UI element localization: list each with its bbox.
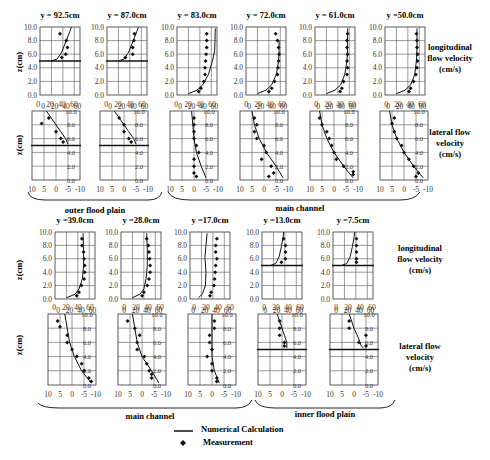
v-tick-label: 0 bbox=[192, 185, 196, 194]
measurement-marker bbox=[277, 45, 281, 49]
plot-title: y =50.0cm bbox=[387, 10, 424, 20]
z-tick-label: 2.0 bbox=[234, 77, 244, 86]
measurement-marker bbox=[210, 348, 214, 352]
v-tick-label: -5 bbox=[65, 185, 71, 194]
v-tick-label: -5 bbox=[273, 185, 279, 194]
z-tick-label: 4.0 bbox=[43, 268, 53, 277]
v-tick-label: 10 bbox=[184, 390, 192, 399]
z-tick-label: 6.0 bbox=[109, 254, 119, 263]
measurement-marker bbox=[140, 294, 144, 298]
u-tick-label: 0 bbox=[262, 303, 266, 312]
u-tick-label: 20 bbox=[202, 303, 210, 312]
u-tick-label: 0 bbox=[178, 102, 182, 111]
z-tick-label: 8.0 bbox=[205, 121, 213, 128]
u-tick-label: 20 bbox=[272, 303, 280, 312]
z-tick-label: 8.0 bbox=[67, 121, 75, 128]
z-tick-label: 0.0 bbox=[275, 177, 283, 184]
z-tick-label: 2.0 bbox=[153, 367, 161, 374]
svg-text:(cm/s): (cm/s) bbox=[409, 363, 431, 373]
z-tick-label: 8.0 bbox=[293, 325, 301, 332]
legend-line-label: Numerical Calculation bbox=[201, 424, 284, 434]
u-tick-label: 40 bbox=[336, 100, 344, 109]
z-axis-label: z(cm) bbox=[14, 260, 24, 280]
measurement-marker bbox=[346, 52, 350, 56]
measurement-marker bbox=[192, 157, 196, 161]
z-tick-label: 6.0 bbox=[275, 135, 283, 142]
plot-title: y = 92.5cm bbox=[40, 10, 79, 20]
z-tick-label: 2.0 bbox=[373, 77, 383, 86]
z-tick-label: 0.0 bbox=[321, 295, 331, 304]
plot-longitudinal-13: 10.08.06.04.02.00.00204060y =28.0cm bbox=[105, 215, 163, 315]
measurement-marker bbox=[278, 319, 282, 323]
v-tick-label: 10 bbox=[236, 185, 244, 194]
measurement-marker bbox=[354, 260, 358, 264]
z-tick-label: 10.0 bbox=[230, 23, 243, 32]
v-tick-label: -10 bbox=[423, 185, 433, 194]
plot-title: y = 61.0cm bbox=[315, 10, 354, 20]
u-tick-label: 20 bbox=[254, 100, 262, 109]
u-tick-label: 60 bbox=[348, 100, 356, 109]
v-tick-label: 0 bbox=[280, 390, 284, 399]
z-tick-label: 6.0 bbox=[135, 135, 143, 142]
u-tick-label: 40 bbox=[406, 100, 414, 109]
z-tick-label: 2.0 bbox=[303, 77, 313, 86]
v-tick-label: 10 bbox=[306, 185, 314, 194]
svg-text:(cm/s): (cm/s) bbox=[439, 64, 461, 74]
v-tick-label: -5 bbox=[133, 185, 139, 194]
plot-title: y =7.5cm bbox=[337, 215, 370, 225]
measurement-marker bbox=[82, 257, 86, 261]
numerical-calculation-line bbox=[349, 314, 363, 348]
numerical-calculation-line bbox=[326, 28, 347, 93]
u-tick-label: 40 bbox=[266, 100, 274, 109]
plot-longitudinal-5: 10.08.06.04.02.00.00204060y =50.0cm bbox=[369, 10, 427, 111]
plot-longitudinal-12: 10.08.06.04.02.00.00204060y =39.0cm bbox=[39, 215, 97, 315]
measurement-marker bbox=[213, 277, 217, 281]
measurement-marker bbox=[59, 137, 63, 141]
u-tick-label: 20 bbox=[394, 100, 402, 109]
measurement-marker bbox=[338, 90, 342, 94]
numerical-calculation-line bbox=[342, 232, 355, 266]
measurement-marker bbox=[87, 376, 91, 380]
side-label-lateral-row2: lateral flow velocity (cm/s) bbox=[399, 341, 441, 373]
u-tick-label: 20 bbox=[184, 100, 192, 109]
v-tick-label: 5 bbox=[58, 390, 62, 399]
plot-lateral-18: 10.08.06.04.02.00.002040601050-5-10 bbox=[114, 303, 171, 399]
numerical-calculation-line bbox=[257, 41, 279, 94]
u-tick-label: 40 bbox=[196, 100, 204, 109]
z-tick-label: 6.0 bbox=[303, 50, 313, 59]
u-tick-label: 40 bbox=[74, 303, 82, 312]
measurement-marker bbox=[192, 164, 196, 168]
measurement-marker bbox=[127, 137, 131, 141]
measurement-marker bbox=[208, 294, 212, 298]
v-tick-label: 5 bbox=[128, 390, 132, 399]
v-tick-label: -5 bbox=[81, 390, 87, 399]
measurement-marker bbox=[148, 264, 152, 268]
plot-title: y = 72.0cm bbox=[246, 10, 285, 20]
u-tick-label: 60 bbox=[368, 303, 376, 312]
measurement-marker bbox=[274, 32, 278, 36]
z-tick-label: 2.0 bbox=[43, 281, 53, 290]
v-tick-label: 0 bbox=[262, 185, 266, 194]
z-tick-label: 8.0 bbox=[234, 36, 244, 45]
measurement-marker bbox=[205, 45, 209, 49]
plot-title: y = 87.0cm bbox=[107, 10, 146, 20]
measurement-marker bbox=[364, 333, 368, 337]
group-label-main-channel-row2: main channel bbox=[126, 411, 176, 421]
plot-longitudinal-16: 10.08.06.04.02.00.00204060y =7.5cm bbox=[317, 215, 375, 315]
measurement-marker bbox=[392, 116, 396, 120]
u-tick-label: 20 bbox=[62, 303, 70, 312]
plot-lateral-6: 10.08.06.04.02.00.002040601050-5-10 bbox=[28, 100, 85, 194]
measurement-marker bbox=[214, 264, 218, 268]
u-tick-label: 60 bbox=[138, 100, 146, 109]
measurement-marker bbox=[213, 270, 217, 274]
z-tick-label: 4.0 bbox=[83, 353, 91, 360]
u-tick-label: 60 bbox=[86, 303, 94, 312]
z-tick-label: 2.0 bbox=[95, 77, 105, 86]
plot-title: y = 83.0cm bbox=[177, 10, 216, 20]
u-tick-label: 60 bbox=[208, 100, 216, 109]
z-tick-label: 0.0 bbox=[345, 177, 353, 184]
velocity-profile-figure: 10.08.06.04.02.00.00204060y = 92.5cm10.0… bbox=[0, 0, 490, 460]
measurement-marker bbox=[354, 243, 358, 247]
svg-text:velocity: velocity bbox=[406, 352, 435, 362]
measurement-marker bbox=[80, 362, 84, 366]
